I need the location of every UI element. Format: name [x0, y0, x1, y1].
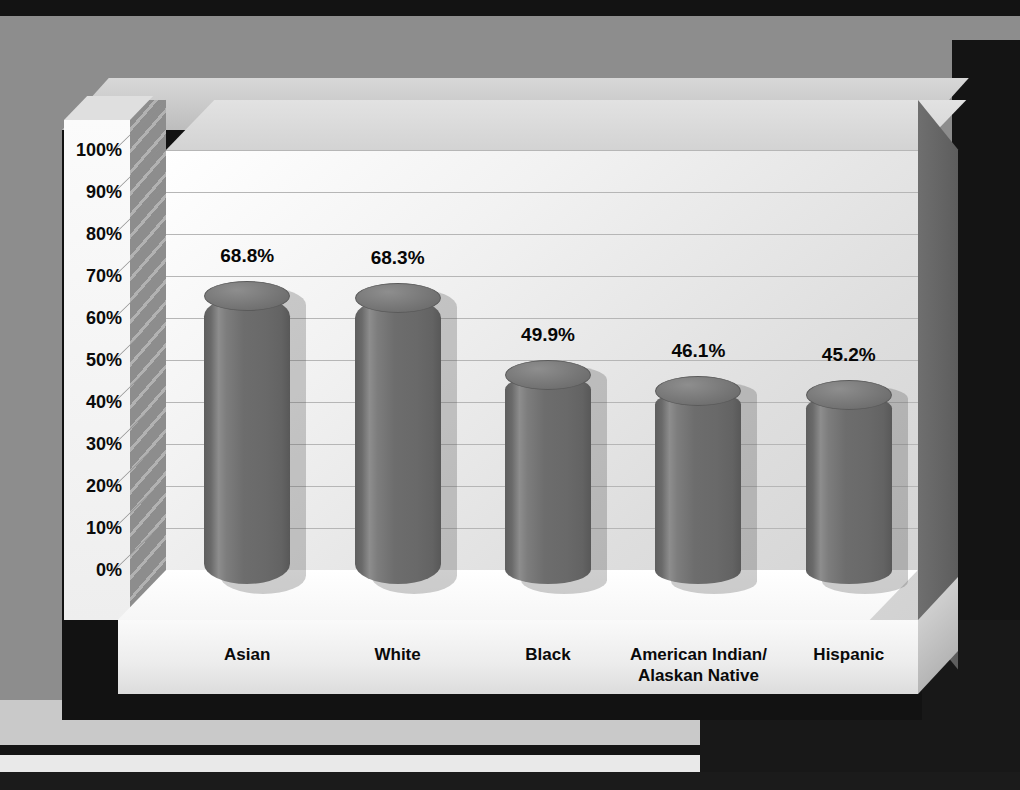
y-axis-tick-label: 40%	[64, 393, 122, 411]
bar-body	[204, 296, 290, 584]
gridline	[166, 276, 918, 277]
bar-value-label: 68.3%	[328, 247, 468, 269]
x-axis-category-label: Asian	[163, 644, 331, 665]
bar[interactable]	[655, 376, 741, 584]
bar-value-label: 68.8%	[177, 245, 317, 267]
y-axis-tick-label: 30%	[64, 435, 122, 453]
bar-body	[355, 298, 441, 584]
y-axis-tick-label: 80%	[64, 225, 122, 243]
gridline	[166, 234, 918, 235]
bar-top-ellipse	[204, 281, 290, 311]
bar[interactable]	[505, 360, 591, 584]
bar-value-label: 49.9%	[478, 324, 618, 346]
y-axis-tick-label: 90%	[64, 183, 122, 201]
bar[interactable]	[806, 380, 892, 584]
bar[interactable]	[204, 281, 290, 584]
y-axis-tick-label: 10%	[64, 519, 122, 537]
bar-value-label: 45.2%	[779, 344, 919, 366]
x-axis-category-label: Hispanic	[765, 644, 933, 665]
y-axis-tick-label: 100%	[64, 141, 122, 159]
plot-panel: 100%90%80%70%60%50%40%30%20%10%0% 68.8%6…	[128, 88, 918, 636]
bar-value-label: 46.1%	[628, 340, 768, 362]
bar-top-ellipse	[355, 283, 441, 313]
backwall-top-face	[166, 100, 966, 150]
chart-canvas: Percentage Race/Ethnicity 100%90%80%70%6…	[0, 0, 1020, 790]
bar-body	[505, 375, 591, 584]
y-axis-tick-label: 70%	[64, 267, 122, 285]
bar[interactable]	[355, 283, 441, 584]
bar-top-ellipse	[806, 380, 892, 410]
x-axis-category-label: Black	[464, 644, 632, 665]
y-axis-tick-label: 60%	[64, 309, 122, 327]
y-axis-tick-label: 20%	[64, 477, 122, 495]
y-axis-tick-label: 50%	[64, 351, 122, 369]
bar-body	[806, 395, 892, 584]
bar-body	[655, 391, 741, 584]
x-axis-category-label: American Indian/ Alaskan Native	[614, 644, 782, 687]
x-axis-category-label: White	[314, 644, 482, 665]
background-bottom-strip	[0, 772, 1020, 790]
gridline	[166, 192, 918, 193]
gridline	[166, 150, 918, 151]
background-top-strip	[0, 0, 1020, 16]
y-axis-wall	[128, 100, 166, 620]
y-axis-title-container: Percentage	[10, 180, 50, 440]
y-axis-tick-label: 0%	[64, 561, 122, 579]
